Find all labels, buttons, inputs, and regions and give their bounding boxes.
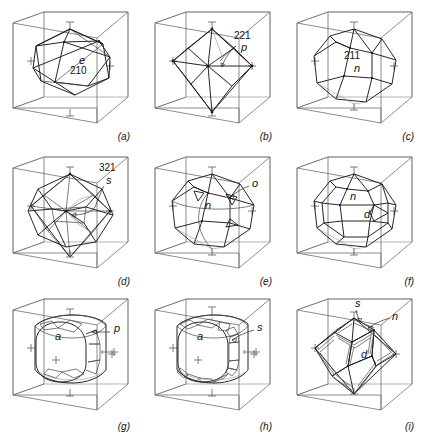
panel-g-form-symbol-a: a xyxy=(55,331,61,343)
polyhedron-h xyxy=(177,315,248,383)
panel-letter-i: (i) xyxy=(405,421,414,432)
panel-d-miller-index: 321 xyxy=(99,163,116,174)
panel-a-miller-index: 210 xyxy=(70,66,87,77)
panel-i-drawing xyxy=(284,290,426,434)
panel-d-drawing xyxy=(0,145,142,290)
panel-g-drawing xyxy=(0,290,142,434)
panel-e-form-symbol-o: o xyxy=(252,178,258,190)
panel-letter-h: (h) xyxy=(260,421,272,432)
reference-cube-g xyxy=(13,299,128,410)
panel-h-drawing xyxy=(142,290,284,434)
panel-f-form-symbol-n: n xyxy=(350,191,356,203)
panel-letter-d: (d) xyxy=(118,276,130,287)
panel-d: 321 s (d) xyxy=(0,145,142,290)
polyhedron-d xyxy=(28,173,113,257)
panel-c-form-symbol: n xyxy=(354,63,360,75)
panel-letter-c: (c) xyxy=(402,131,414,142)
panel-h-form-symbol-a: a xyxy=(197,331,203,343)
panel-letter-g: (g) xyxy=(118,421,130,432)
panel-g-form-symbol-p: p xyxy=(114,323,120,335)
panel-a: e 210 (a) xyxy=(0,0,142,145)
panel-i-form-symbol-s: s xyxy=(355,298,361,310)
panel-f-drawing xyxy=(284,145,426,290)
panel-f-form-symbol-d: d xyxy=(364,209,370,221)
panel-i: s n d (i) xyxy=(284,290,426,434)
panel-c: 211 n (c) xyxy=(284,0,426,145)
panel-letter-b: (b) xyxy=(260,131,272,142)
panel-b-form-symbol: p xyxy=(241,42,247,54)
polyhedron-a xyxy=(33,29,110,95)
panel-e-form-symbol-n: n xyxy=(205,200,211,212)
figure-panel-grid: e 210 (a) xyxy=(0,0,426,434)
panel-b: 221 p (b) xyxy=(142,0,284,145)
panel-g: a p (g) xyxy=(0,290,142,434)
panel-f: n d (f) xyxy=(284,145,426,290)
panel-letter-a: (a) xyxy=(118,131,130,142)
panel-c-miller-index: 211 xyxy=(344,51,360,62)
panel-i-form-symbol-d: d xyxy=(361,349,367,361)
panel-d-form-symbol: s xyxy=(106,175,112,187)
polyhedron-g xyxy=(35,315,106,383)
panel-letter-e: (e) xyxy=(260,276,272,287)
panel-i-form-symbol-n: n xyxy=(392,311,398,323)
polyhedron-i xyxy=(315,318,396,394)
axis-marks-i xyxy=(311,312,400,394)
panel-e: n o (e) xyxy=(142,145,284,290)
panel-b-miller-index: 221 xyxy=(234,31,251,42)
panel-h: a s (h) xyxy=(142,290,284,434)
panel-letter-f: (f) xyxy=(405,276,414,287)
reference-cube-h xyxy=(155,299,270,410)
panel-h-form-symbol-s: s xyxy=(257,322,263,334)
panel-e-drawing xyxy=(142,145,284,290)
panel-b-drawing xyxy=(142,0,284,145)
